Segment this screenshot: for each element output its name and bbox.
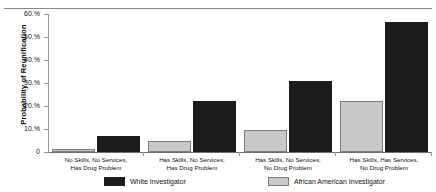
category-label-line: Has Skills, No Services, bbox=[144, 156, 240, 164]
bar-group bbox=[336, 14, 432, 152]
legend-item: African American Investigator bbox=[268, 177, 385, 186]
bar bbox=[340, 101, 383, 152]
y-axis-tick-label: 30.% bbox=[6, 79, 40, 86]
bar-group bbox=[144, 14, 240, 152]
y-axis-tick-label: 10.% bbox=[6, 125, 40, 132]
legend-item: White Investigator bbox=[104, 177, 186, 186]
y-axis-tick-label: 50.% bbox=[6, 33, 40, 40]
x-axis-category-label: Has Skills, No Services,No Drug Problem bbox=[240, 156, 336, 173]
bar-group bbox=[48, 14, 144, 152]
category-label-line: Has Skills, No Services, bbox=[240, 156, 336, 164]
y-axis-tick-label: 20.% bbox=[6, 102, 40, 109]
bar bbox=[244, 130, 287, 152]
category-label-line: No Skills, No Services, bbox=[48, 156, 144, 164]
bar bbox=[385, 22, 428, 152]
category-label-line: No Drug Problem bbox=[336, 164, 432, 172]
category-label-line: Has Drug Problem bbox=[48, 164, 144, 172]
y-axis-tick-label: 60.% bbox=[6, 10, 40, 17]
plot-area: 60.%50.%40.%30.%20.%10.%0 bbox=[48, 14, 432, 152]
bar bbox=[148, 141, 191, 153]
bar bbox=[97, 136, 140, 152]
x-axis-category-label: Has Skills, Has Services,No Drug Problem bbox=[336, 156, 432, 173]
category-label-line: Has Skills, Has Services, bbox=[336, 156, 432, 164]
x-axis-line bbox=[48, 152, 432, 153]
y-axis-tick-label: 40.% bbox=[6, 56, 40, 63]
legend-swatch bbox=[268, 177, 289, 186]
category-label-line: Has Drug Problem bbox=[144, 164, 240, 172]
chart-legend: White InvestigatorAfrican American Inves… bbox=[0, 177, 436, 189]
bar bbox=[193, 101, 236, 152]
y-axis-tick-label: 0 bbox=[6, 148, 40, 155]
x-axis-category-label: No Skills, No Services,Has Drug Problem bbox=[48, 156, 144, 173]
category-label-line: No Drug Problem bbox=[240, 164, 336, 172]
top-divider-rule bbox=[4, 8, 432, 9]
bar bbox=[289, 81, 332, 152]
legend-swatch bbox=[104, 177, 125, 186]
legend-label: White Investigator bbox=[130, 178, 186, 185]
bar-group bbox=[240, 14, 336, 152]
bar bbox=[52, 149, 95, 152]
x-axis-category-label: Has Skills, No Services,Has Drug Problem bbox=[144, 156, 240, 173]
y-axis-tick bbox=[44, 152, 49, 153]
bar-chart-figure: Probability of Reunification 60.%50.%40.… bbox=[0, 0, 436, 192]
legend-label: African American Investigator bbox=[294, 178, 385, 185]
